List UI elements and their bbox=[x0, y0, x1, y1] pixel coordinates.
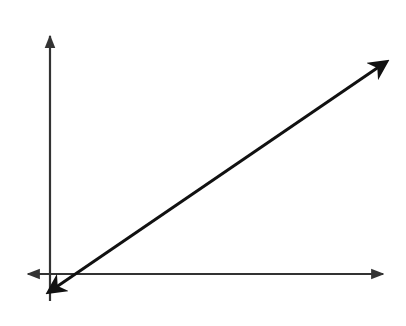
line-zw bbox=[49, 62, 386, 292]
coordinate-grid-diagram bbox=[0, 0, 406, 326]
